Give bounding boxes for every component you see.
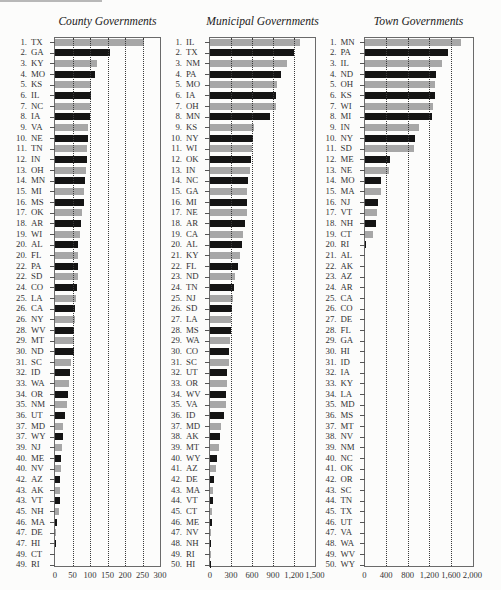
y-tick-mark [360,362,365,363]
state-label: DE [31,527,43,538]
bar-nh [55,508,59,515]
rank-label: 5. [310,79,337,90]
state-label: OH [31,165,44,176]
rank-label: 37. [310,421,337,432]
rank-label: 29. [310,335,337,346]
rank-label: 22. [155,261,182,272]
bar-ak [210,433,220,440]
rank-label: 15. [0,186,27,197]
bar-ma [55,519,57,526]
rank-label: 9. [155,122,182,133]
y-tick-mark [360,309,365,310]
bar-ar [55,220,81,227]
bar-sd [365,145,414,152]
bar-wy [55,433,63,440]
state-label: MD [341,399,355,410]
y-tick-mark [360,522,365,523]
state-label: MT [186,442,199,453]
bar-la [210,316,231,323]
state-label: ME [186,517,199,528]
bar-ca [210,231,243,238]
bar-ct [365,231,373,238]
rank-label: 48. [155,538,182,549]
bar-nh [210,540,211,547]
state-label: IL [186,37,194,48]
rank-label: 49. [310,549,337,560]
state-label: PA [341,47,351,58]
rank-label: 26. [155,303,182,314]
bar-nj [210,295,233,302]
rank-label: 49. [0,549,27,560]
rank-label: 42. [310,474,337,485]
state-label: PA [31,261,41,272]
bar-id [55,369,70,376]
state-label: CA [341,293,353,304]
gridline [231,38,232,566]
state-label: IA [186,90,195,101]
rank-label: 19. [310,229,337,240]
rank-label: 48. [310,538,337,549]
rank-label: 46. [310,517,337,528]
state-label: MD [31,421,45,432]
state-label: MN [186,111,200,122]
rank-label: 50. [310,559,337,570]
rank-label: 36. [155,410,182,421]
rank-label: 32. [155,367,182,378]
state-label: NH [186,538,199,549]
rank-label: 7. [155,101,182,112]
state-label: MO [341,175,355,186]
bar-in [210,167,250,174]
rank-label: 4. [155,69,182,80]
rank-label: 47. [310,527,337,538]
rank-label: 17. [310,207,337,218]
state-label: CT [31,549,42,560]
y-tick-mark [360,319,365,320]
rank-label: 23. [155,271,182,282]
rank-label: 45. [0,506,27,517]
rank-label: 3. [310,58,337,69]
state-label: TN [186,282,198,293]
rank-label: 40. [0,463,27,474]
bar-wi [365,103,433,110]
state-label: MD [186,421,200,432]
state-label: MA [341,186,355,197]
state-label: IA [341,367,350,378]
rank-label: 7. [0,101,27,112]
y-tick-mark [360,330,365,331]
state-label: IL [31,90,39,101]
state-label: MS [31,197,44,208]
state-label: MA [31,517,45,528]
x-tick-label: 150 [101,570,114,580]
bar-wv [55,327,74,334]
rank-label: 31. [155,357,182,368]
state-label: CO [186,346,198,357]
bar-fl [55,252,78,259]
state-label: MS [341,410,354,421]
state-label: NY [31,314,44,325]
bar-hi [55,540,56,547]
rank-label: 16. [155,197,182,208]
y-tick-mark [360,341,365,342]
rank-label: 24. [310,282,337,293]
state-label: VA [341,527,353,538]
state-label: ME [341,154,354,165]
y-tick-mark [360,565,365,566]
state-label: UT [31,410,43,421]
state-label: OR [186,378,198,389]
rank-label: 38. [310,431,337,442]
bar-pa [210,71,281,78]
rank-label: 22. [310,261,337,272]
bar-wi [55,231,80,238]
rank-label: 40. [155,453,182,464]
x-tick-label: 1,500 [305,570,324,580]
rank-label: 33. [0,378,27,389]
state-label: RI [31,559,40,570]
rank-label: 19. [0,229,27,240]
chart-title: Town Governments [374,15,463,28]
y-tick-mark [360,405,365,406]
bar-sc [55,359,71,366]
rank-label: 33. [310,378,337,389]
rank-label: 40. [0,453,27,464]
state-label: WI [341,101,352,112]
rank-label: 49. [155,549,182,560]
